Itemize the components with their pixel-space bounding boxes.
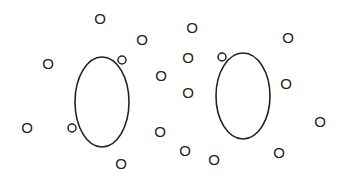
particle: O — [136, 32, 148, 47]
loop-knob — [218, 53, 226, 61]
loops-layer — [0, 0, 344, 180]
particle: O — [273, 145, 285, 160]
particle: O — [21, 120, 33, 135]
loop-knob — [68, 124, 76, 132]
particle: O — [94, 11, 106, 26]
particle: O — [179, 143, 191, 158]
diagram-canvas: OOOOOOOOOOOOOOOO — [0, 0, 344, 180]
right-loop — [216, 53, 270, 139]
particle: O — [42, 56, 54, 71]
particle: O — [182, 50, 194, 65]
particle: O — [115, 156, 127, 171]
particle: O — [154, 124, 166, 139]
particle: O — [155, 68, 167, 83]
particle: O — [314, 114, 326, 129]
particle: O — [182, 85, 194, 100]
particle: O — [280, 76, 292, 91]
particle: O — [186, 20, 198, 35]
loop-knob — [118, 56, 126, 64]
particle: O — [282, 30, 294, 45]
left-loop — [68, 56, 129, 147]
loop-outline — [216, 53, 270, 139]
loop-outline — [75, 57, 129, 147]
particle: O — [208, 152, 220, 167]
